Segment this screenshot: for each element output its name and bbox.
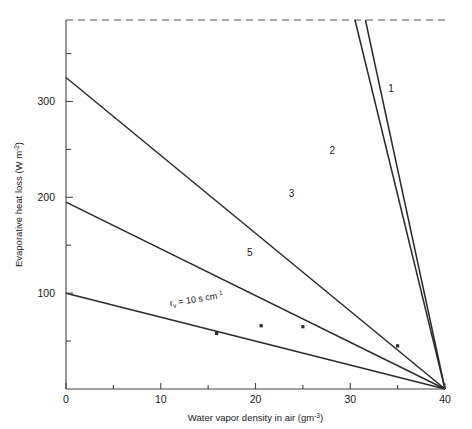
y-tick-label-200: 200 — [37, 191, 55, 203]
data-point-2 — [301, 325, 304, 328]
curve-label-3: 3 — [289, 188, 295, 199]
x-tick-label-30: 30 — [344, 393, 356, 405]
figure-container: 100200300010203040 1235 rv = 10 s cm-1 W… — [0, 0, 472, 429]
chart-background — [0, 0, 472, 429]
curve-label-5: 5 — [247, 247, 253, 258]
y-tick-label-100: 100 — [37, 287, 55, 299]
curve-label-1: 1 — [388, 83, 394, 94]
x-axis-title: Water vapor density in air (gm-3) — [188, 412, 323, 423]
data-point-4 — [215, 332, 218, 335]
evaporative-heat-loss-chart: 100200300010203040 1235 rv = 10 s cm-1 W… — [0, 0, 472, 429]
x-tick-label-0: 0 — [63, 393, 69, 405]
x-tick-label-20: 20 — [250, 393, 262, 405]
data-point-1 — [260, 324, 263, 327]
y-tick-label-300: 300 — [37, 95, 55, 107]
data-point-3 — [396, 344, 399, 347]
curve-label-2: 2 — [329, 145, 335, 156]
x-tick-label-40: 40 — [439, 393, 451, 405]
y-axis-title: Evaporative heat loss (W m-2) — [13, 142, 24, 267]
x-tick-label-10: 10 — [155, 393, 167, 405]
